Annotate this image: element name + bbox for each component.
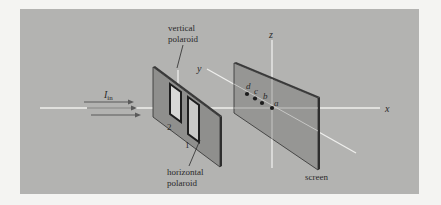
point-c (253, 96, 257, 100)
point-b-label: b (263, 91, 268, 101)
window-1-horizontal-polaroid (188, 97, 199, 142)
y-axis-label: y (196, 63, 202, 74)
incident-beam (84, 100, 141, 118)
window-1-label: 1 (185, 140, 190, 150)
vertical-polaroid-label: vertical (168, 23, 195, 33)
screen-label: screen (305, 172, 328, 182)
point-d-label: d (246, 81, 251, 91)
horizontal-polaroid-label: horizontal (167, 167, 204, 177)
point-c-label: c (254, 86, 258, 96)
point-a-label: a (274, 98, 279, 108)
polarization-diagram: x z y Iin 2 (0, 0, 441, 205)
horizontal-polaroid-label-2: polaroid (167, 178, 197, 188)
point-b (260, 101, 264, 105)
window-2-vertical-polaroid (170, 84, 181, 122)
x-axis-label: x (384, 103, 390, 114)
point-d (245, 92, 249, 96)
z-axis-label: z (268, 29, 273, 40)
window-2-label: 2 (167, 122, 172, 132)
vertical-polaroid-label-2: polaroid (168, 34, 198, 44)
